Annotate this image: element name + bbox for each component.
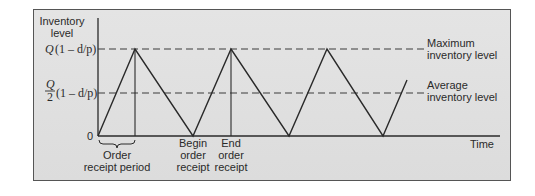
x-axis-title: Time	[470, 138, 494, 150]
begin-receipt-line3: receipt	[176, 161, 209, 173]
order-receipt-line2: receipt period	[84, 161, 151, 173]
begin-receipt-line1: Begin	[179, 137, 207, 149]
end-receipt-line3: receipt	[214, 161, 247, 173]
max-label-line2: inventory level	[427, 49, 497, 61]
order-receipt-brace	[99, 140, 135, 148]
y-axis-title-line2: level	[51, 27, 74, 39]
avg-tick-num: Q	[46, 77, 55, 91]
max-label-line1: Maximum	[427, 37, 475, 49]
end-receipt-line1: End	[221, 137, 241, 149]
max-tick-q: Q	[45, 42, 54, 56]
inventory-diagram: Inventory level Q (1 – d/p) Q 2 (1 – d/p…	[0, 0, 535, 196]
avg-tick-den: 2	[47, 90, 53, 104]
order-receipt-line1: Order	[103, 149, 131, 161]
y-axis-title-line1: Inventory	[39, 15, 85, 27]
zero-tick: 0	[87, 130, 93, 142]
avg-label-line2: inventory level	[427, 91, 497, 103]
max-tick-expr: (1 – d/p)	[55, 42, 96, 56]
avg-tick-expr: (1 – d/p)	[56, 86, 97, 100]
begin-receipt-line2: order	[180, 149, 206, 161]
avg-label-line1: Average	[427, 79, 468, 91]
end-receipt-line2: order	[218, 149, 244, 161]
